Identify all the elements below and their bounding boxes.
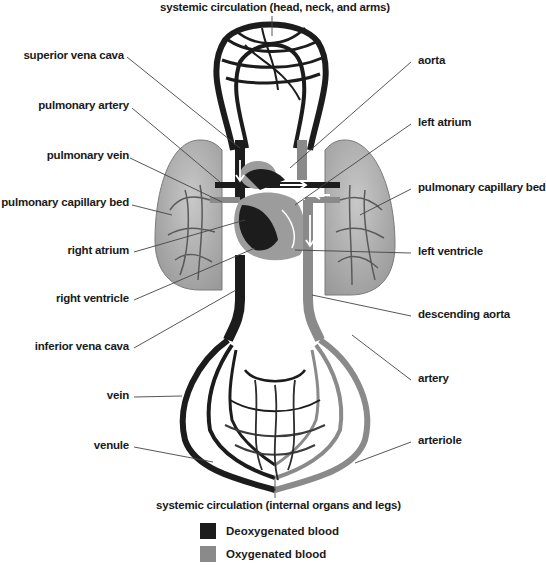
label-left-atrium: left atrium <box>418 116 471 128</box>
label-venule: venule <box>94 439 129 451</box>
oxygenated-swatch <box>200 546 216 562</box>
label-left-ventricle: left ventricle <box>418 245 483 257</box>
legend-label: Deoxygenated blood <box>226 525 339 537</box>
heart <box>234 161 305 260</box>
legend-label: Oxygenated blood <box>226 548 326 560</box>
label-superior-vena-cava: superior vena cava <box>23 49 124 61</box>
legend-deoxygenated: Deoxygenated blood <box>200 523 339 539</box>
title-systemic-lower: systemic circulation (internal organs an… <box>156 499 401 511</box>
label-artery: artery <box>418 372 449 384</box>
label-vein: vein <box>107 389 129 401</box>
label-right-atrium: right atrium <box>68 244 130 256</box>
title-systemic-upper: systemic circulation (head, neck, and ar… <box>160 1 390 13</box>
label-pulmonary-capillary-bed-right: pulmonary capillary bed <box>418 181 546 193</box>
legend-oxygenated: Oxygenated blood <box>200 546 326 562</box>
body-capillary-network <box>183 340 367 490</box>
label-descending-aorta: descending aorta <box>418 308 510 320</box>
label-pulmonary-artery: pulmonary artery <box>38 99 129 111</box>
label-pulmonary-vein: pulmonary vein <box>47 149 129 161</box>
label-inferior-vena-cava: inferior vena cava <box>35 340 129 352</box>
head-capillary-network <box>216 25 325 151</box>
inferior-vena-cava-vessel <box>228 255 240 340</box>
left-lung <box>155 140 222 290</box>
right-lung <box>325 140 395 295</box>
label-pulmonary-capillary-bed-left: pulmonary capillary bed <box>1 196 129 208</box>
label-arteriole: arteriole <box>418 434 462 446</box>
deoxygenated-swatch <box>200 523 216 539</box>
label-right-ventricle: right ventricle <box>56 292 129 304</box>
label-aorta: aorta <box>418 54 445 66</box>
